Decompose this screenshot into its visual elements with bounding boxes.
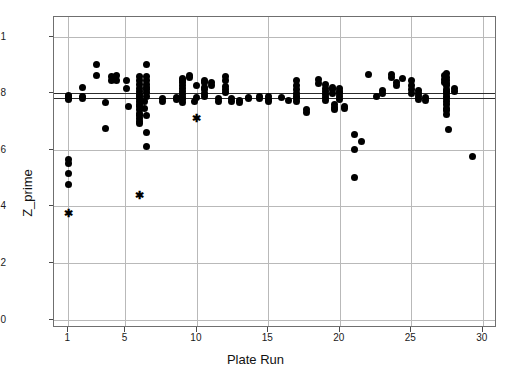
data-point [93,72,100,79]
data-point [415,96,422,103]
gridline-horizontal [54,263,495,264]
x-tick-mark [196,327,197,332]
data-point [159,98,166,105]
data-point [102,125,109,132]
data-point [445,126,452,133]
gridline-vertical [197,17,198,326]
gridline-vertical [411,17,412,326]
data-point [79,95,86,102]
y-tick-mark [49,319,53,320]
data-point [256,95,263,102]
data-point [265,98,272,105]
data-point [322,97,329,104]
data-point [186,74,193,81]
x-tick-mark [339,327,340,332]
data-point [79,84,86,91]
outlier-marker: ✱ [64,209,73,218]
gridline-horizontal [54,206,495,207]
data-point [399,75,406,82]
data-point [123,77,130,84]
outlier-marker: ✱ [135,191,144,200]
data-point [422,97,429,104]
upper-control-line [54,93,495,94]
y-tick-label: 0.8 [0,87,6,98]
data-point [123,85,130,92]
data-point [341,105,348,112]
y-axis-title: Z_prime [20,169,35,217]
data-point [143,112,150,119]
data-point [65,96,72,103]
data-point [351,174,358,181]
y-tick-mark [49,205,53,206]
x-tick-label: 5 [104,332,144,343]
data-point [143,129,150,136]
x-tick-label: 30 [462,332,502,343]
data-point [65,160,72,167]
data-point [331,106,338,113]
y-tick-mark [49,149,53,150]
data-point [278,94,285,101]
y-tick-mark [49,92,53,93]
x-tick-label: 25 [390,332,430,343]
data-point [351,131,358,138]
data-point [351,146,358,153]
x-tick-mark [410,327,411,332]
data-point [143,61,150,68]
data-point [102,99,109,106]
scatter-chart-figure: Z_prime Plate Run ✱✱✱ 00.20.40.60.81 151… [0,0,511,386]
x-tick-label: 20 [319,332,359,343]
data-point [315,80,322,87]
data-point [179,99,186,106]
data-point [451,88,458,95]
data-point [201,93,208,100]
data-point [228,98,235,105]
gridline-vertical [340,17,341,326]
y-tick-mark [49,262,53,263]
x-tick-label: 1 [47,332,87,343]
x-tick-label: 15 [247,332,287,343]
x-tick-mark [482,327,483,332]
data-point [408,90,415,97]
data-point [125,103,132,110]
gridline-horizontal [54,150,495,151]
data-point [136,120,143,127]
data-point [65,181,72,188]
data-point [303,109,310,116]
y-tick-mark [49,36,53,37]
data-point [65,170,72,177]
data-point [193,82,200,89]
data-point [208,82,215,89]
data-point [365,71,372,78]
data-point [285,97,292,104]
gridline-vertical [125,17,126,326]
gridline-vertical [483,17,484,326]
data-point [329,90,336,97]
data-point [358,138,365,145]
x-tick-mark [124,327,125,332]
data-point [393,82,400,89]
data-point [236,99,243,106]
data-point [215,98,222,105]
gridline-horizontal [54,37,495,38]
data-point [143,93,150,100]
plot-area: ✱✱✱ [53,16,496,327]
outlier-marker: ✱ [192,114,201,123]
data-point [193,94,200,101]
data-point [379,90,386,97]
y-tick-label: 1 [0,30,6,41]
data-point [293,98,300,105]
gridline-vertical [268,17,269,326]
data-point [113,77,120,84]
data-point [443,111,450,118]
data-point [93,61,100,68]
x-tick-mark [67,327,68,332]
x-axis-title: Plate Run [0,352,511,367]
y-tick-label: 0.4 [0,200,6,211]
y-tick-label: 0.2 [0,256,6,267]
data-point [245,95,252,102]
gridline-horizontal [54,320,495,321]
x-tick-mark [267,327,268,332]
y-tick-label: 0 [0,313,6,324]
y-tick-label: 0.6 [0,143,6,154]
data-point [469,153,476,160]
